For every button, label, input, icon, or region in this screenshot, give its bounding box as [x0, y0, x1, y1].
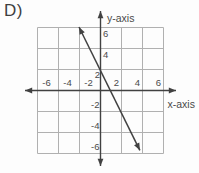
x-tick-label: -6 [42, 77, 50, 88]
x-tick-label: 4 [135, 77, 140, 88]
y-axis-arrow-down-icon [98, 159, 104, 166]
y-tick-label: -2 [91, 99, 99, 110]
x-tick-label: 2 [114, 77, 119, 88]
x-axis-label: x-axis [168, 98, 195, 110]
x-tick-label: 6 [156, 77, 161, 88]
x-tick-label: -2 [84, 77, 92, 88]
y-tick-label: -4 [91, 120, 99, 131]
y-tick-label: -6 [91, 141, 99, 152]
y-tick-label: 2 [95, 69, 100, 80]
x-axis-arrow-right-icon [169, 88, 176, 94]
x-tick-label: -4 [63, 77, 71, 88]
y-tick-label: 4 [103, 49, 108, 60]
x-axis-arrow-left-icon [25, 88, 32, 94]
coordinate-plane: -6-4-2246642-2-4-6 y-axisx-axis [0, 0, 199, 173]
y-axis-arrow-up-icon [98, 11, 104, 18]
y-axis-label: y-axis [107, 12, 134, 24]
y-tick-label: 6 [103, 28, 108, 39]
